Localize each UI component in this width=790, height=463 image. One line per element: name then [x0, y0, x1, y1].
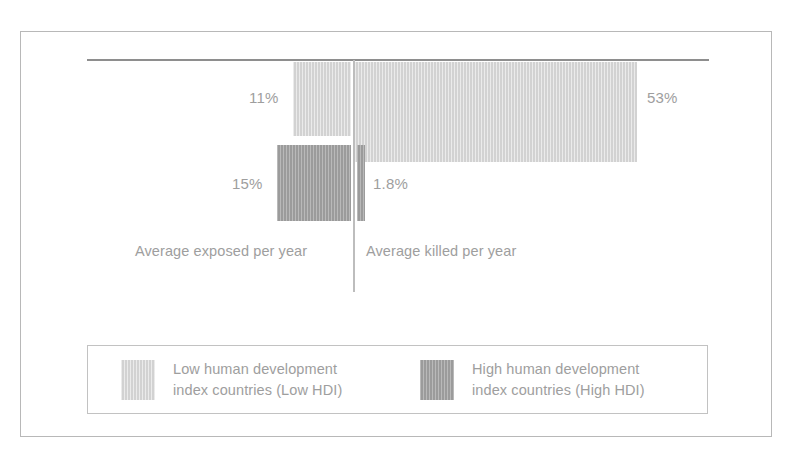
- figure-frame: 11% 53% 15% 1.8% Average exposed per yea…: [20, 31, 772, 437]
- legend-label-low-hdi-line1: Low human development: [173, 361, 337, 377]
- legend: Low human development index countries (L…: [87, 345, 708, 414]
- legend-item-high-hdi: High human development index countries (…: [420, 359, 645, 401]
- value-label-high-hdi-exposed: 15%: [232, 175, 263, 192]
- legend-label-high-hdi-line2: index countries (High HDI): [472, 382, 645, 398]
- value-label-low-hdi-killed: 53%: [647, 89, 678, 106]
- bar-low-hdi-killed: [355, 62, 637, 162]
- legend-label-high-hdi-line1: High human development: [472, 361, 639, 377]
- legend-label-low-hdi: Low human development index countries (L…: [173, 359, 342, 401]
- plot-area: 11% 53% 15% 1.8% Average exposed per yea…: [21, 32, 773, 312]
- legend-swatch-high-hdi-icon: [420, 360, 454, 400]
- baseline-rule: [87, 59, 709, 61]
- value-label-low-hdi-exposed: 11%: [249, 89, 279, 106]
- legend-item-low-hdi: Low human development index countries (L…: [121, 359, 342, 401]
- bar-high-hdi-killed: [357, 145, 365, 221]
- category-label-killed: Average killed per year: [366, 243, 516, 259]
- legend-label-low-hdi-line2: index countries (Low HDI): [173, 382, 342, 398]
- bar-low-hdi-exposed: [293, 62, 351, 136]
- category-label-exposed: Average exposed per year: [135, 243, 307, 259]
- bar-high-hdi-exposed: [277, 145, 351, 221]
- legend-swatch-low-hdi-icon: [121, 360, 155, 400]
- legend-label-high-hdi: High human development index countries (…: [472, 359, 645, 401]
- value-label-high-hdi-killed: 1.8%: [373, 175, 408, 192]
